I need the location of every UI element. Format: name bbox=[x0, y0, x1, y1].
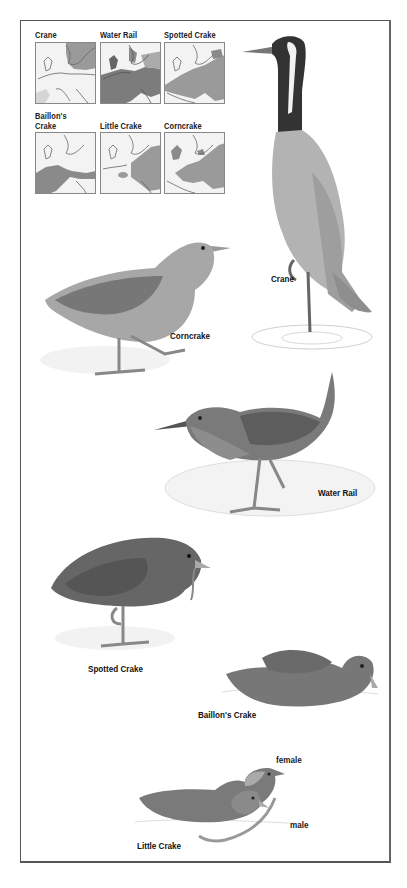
map-label-crane: Crane bbox=[35, 30, 57, 40]
map-label-little-crake: Little Crake bbox=[100, 121, 142, 131]
map-label-baillons-crake-line1: Baillon's bbox=[35, 111, 67, 121]
map-label-baillons-crake-line2: Crake bbox=[35, 121, 56, 131]
map-label-spotted-crake: Spotted Crake bbox=[164, 30, 216, 40]
label-baillons-crake: Baillon's Crake bbox=[198, 710, 256, 720]
range-map-water-rail bbox=[100, 42, 161, 104]
range-map-spotted-crake bbox=[164, 42, 225, 104]
range-map-little-crake bbox=[100, 132, 161, 194]
label-little-crake-male: male bbox=[290, 820, 308, 830]
label-little-crake: Little Crake bbox=[137, 841, 181, 851]
crane-illustration bbox=[232, 32, 387, 352]
little-crake-illustration bbox=[135, 752, 315, 852]
water-rail-illustration bbox=[150, 368, 380, 528]
label-corncrake: Corncrake bbox=[170, 331, 210, 341]
range-map-corncrake bbox=[164, 132, 225, 194]
corncrake-illustration bbox=[35, 230, 235, 380]
spotted-crake-illustration bbox=[45, 528, 215, 658]
label-crane: Crane bbox=[271, 274, 294, 284]
label-water-rail: Water Rail bbox=[318, 488, 357, 498]
label-spotted-crake: Spotted Crake bbox=[88, 664, 143, 674]
map-label-corncrake: Corncrake bbox=[164, 121, 202, 131]
label-little-crake-female: female bbox=[276, 755, 302, 765]
baillons-crake-illustration bbox=[222, 638, 382, 718]
range-map-crane bbox=[35, 42, 96, 104]
range-map-baillons-crake bbox=[35, 132, 96, 194]
map-label-water-rail: Water Rail bbox=[100, 30, 137, 40]
